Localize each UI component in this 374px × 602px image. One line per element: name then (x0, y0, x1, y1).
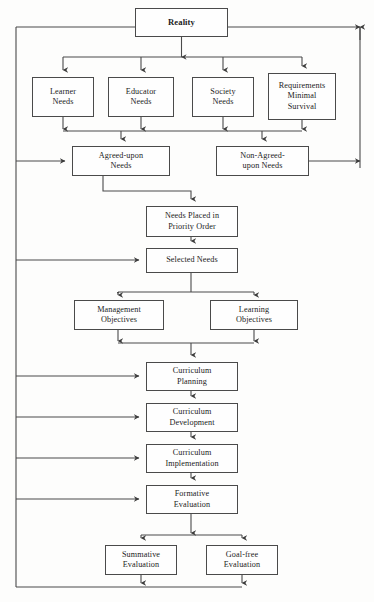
node-agreed-upon-needs-label: Agreed-uponNeeds (75, 151, 167, 172)
node-curriculum-development-label: CurriculumDevelopment (149, 407, 235, 428)
node-formative-evaluation-label: FormativeEvaluation (149, 489, 235, 510)
node-selected-needs-label: Selected Needs (149, 255, 235, 266)
node-society-needs[interactable]: SocietyNeeds (192, 77, 254, 117)
node-agreed-upon-needs[interactable]: Agreed-uponNeeds (72, 146, 170, 176)
node-management-objectives-label: ManagementObjectives (77, 305, 161, 326)
node-curriculum-planning-label: CurriculumPlanning (149, 366, 235, 387)
node-reality-label: Reality (138, 17, 225, 28)
node-educator-needs-label: EducatorNeeds (111, 87, 171, 108)
node-reality[interactable]: Reality (135, 8, 228, 37)
node-needs-placed-priority-label: Needs Placed inPriority Order (149, 211, 235, 232)
node-non-agreed-upon-needs-label: Non-Agreed-upon Needs (219, 151, 306, 172)
flowchart-diagram: Reality LearnerNeeds EducatorNeeds Socie… (0, 0, 374, 602)
node-curriculum-planning[interactable]: CurriculumPlanning (146, 362, 238, 391)
node-learner-needs-label: LearnerNeeds (35, 87, 91, 108)
node-requirements-minimal-survival[interactable]: RequirementsMinimalSurvival (268, 73, 336, 120)
node-summative-evaluation-label: SummativeEvaluation (108, 550, 174, 571)
edge-agreed-to-priority (103, 176, 191, 199)
node-management-objectives[interactable]: ManagementObjectives (74, 300, 164, 330)
node-selected-needs[interactable]: Selected Needs (146, 248, 238, 273)
node-educator-needs[interactable]: EducatorNeeds (108, 77, 174, 117)
node-learning-objectives-label: LearningObjectives (213, 305, 295, 326)
node-requirements-minimal-survival-label: RequirementsMinimalSurvival (271, 81, 333, 113)
node-summative-evaluation[interactable]: SummativeEvaluation (105, 545, 177, 575)
node-curriculum-implementation[interactable]: CurriculumImplementation (146, 444, 238, 473)
node-formative-evaluation[interactable]: FormativeEvaluation (146, 485, 238, 514)
node-goal-free-evaluation-label: Goal-freeEvaluation (209, 550, 275, 571)
node-non-agreed-upon-needs[interactable]: Non-Agreed-upon Needs (216, 146, 309, 176)
node-curriculum-implementation-label: CurriculumImplementation (149, 448, 235, 469)
node-learning-objectives[interactable]: LearningObjectives (210, 300, 298, 330)
node-society-needs-label: SocietyNeeds (195, 87, 251, 108)
node-curriculum-development[interactable]: CurriculumDevelopment (146, 403, 238, 432)
node-learner-needs[interactable]: LearnerNeeds (32, 77, 94, 117)
node-goal-free-evaluation[interactable]: Goal-freeEvaluation (206, 545, 278, 575)
node-needs-placed-priority[interactable]: Needs Placed inPriority Order (146, 206, 238, 237)
